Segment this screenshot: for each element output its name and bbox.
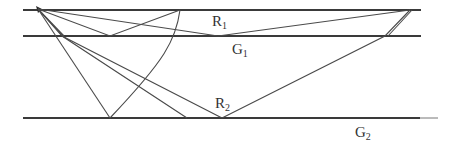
ray-refract-g1-b	[38, 9, 222, 118]
ray-upgoing-r2-parallel	[388, 10, 412, 36]
ray-direct-to-g2	[38, 9, 110, 118]
ray-path-diagram: R1 G1 R2 G2	[0, 0, 459, 145]
label-r2: R2	[215, 95, 230, 113]
label-r1: R1	[212, 13, 227, 31]
label-g1: G1	[232, 41, 248, 59]
ray-curved-refraction	[110, 10, 180, 118]
label-g2: G2	[355, 124, 371, 142]
ray-upgoing-r2	[222, 10, 410, 118]
ray-refract-g1-a	[38, 9, 187, 118]
ray-source-to-g1	[38, 9, 64, 36]
